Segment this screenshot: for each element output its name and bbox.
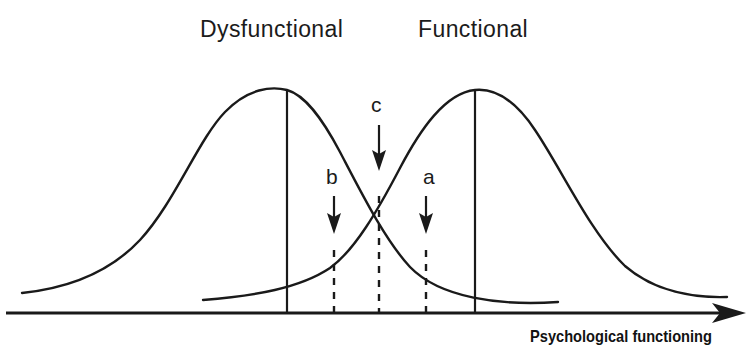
arrow-c (372, 125, 386, 171)
group-label-dysfunctional: Dysfunctional (200, 16, 343, 43)
arrow-a (419, 196, 433, 234)
point-label-c: c (371, 93, 382, 117)
distribution-diagram (0, 0, 750, 353)
figure-container: Dysfunctional Functional b c a Psycholog… (0, 0, 750, 353)
dysfunctional-curve (22, 88, 558, 303)
functional-curve (203, 90, 727, 300)
x-axis-title: Psychological functioning (530, 327, 712, 347)
point-label-b: b (326, 165, 338, 189)
point-label-a: a (423, 165, 435, 189)
arrow-b (327, 196, 341, 234)
group-label-functional: Functional (418, 16, 528, 43)
x-axis (6, 303, 746, 323)
